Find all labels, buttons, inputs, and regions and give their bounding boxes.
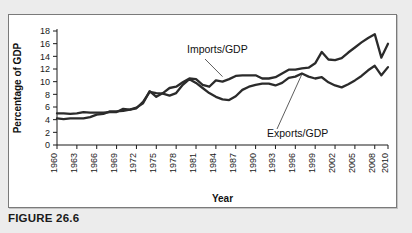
- x-tick-label: 1999: [307, 153, 317, 173]
- y-tick-label: 2: [45, 128, 50, 138]
- x-tick-label: 1996: [287, 153, 297, 173]
- x-tick-label: 2005: [347, 153, 357, 173]
- x-tick-label: 1990: [248, 153, 258, 173]
- y-tick-label: 10: [40, 77, 50, 87]
- y-tick-label: 4: [45, 115, 50, 125]
- y-tick-label: 6: [45, 102, 50, 112]
- y-tick-label: 8: [45, 90, 50, 100]
- x-tick-label: 1975: [148, 153, 158, 173]
- x-tick-label: 1963: [69, 153, 79, 173]
- y-tick-label: 14: [40, 52, 50, 62]
- x-tick-label: 1987: [228, 153, 238, 173]
- figure-container: 0246810121416181960196319661969197219751…: [0, 0, 412, 233]
- x-tick-label: 1972: [128, 153, 138, 173]
- annotation-label-1: Exports/GDP: [267, 127, 328, 139]
- figure-caption: FIGURE 26.6: [8, 212, 79, 224]
- y-axis-title: Percentage of GDP: [12, 42, 23, 133]
- annotation-label-0: Imports/GDP: [187, 43, 248, 55]
- x-axis-title: Year: [212, 193, 233, 204]
- x-tick-label: 1978: [168, 153, 178, 173]
- x-tick-label: 1984: [208, 153, 218, 173]
- x-tick-label: 1966: [89, 153, 99, 173]
- x-tick-label: 2010: [380, 153, 390, 173]
- y-tick-label: 16: [40, 39, 50, 49]
- y-tick-label: 18: [40, 26, 50, 36]
- chart-frame: 0246810121416181960196319661969197219751…: [8, 14, 397, 208]
- x-tick-label: 1981: [188, 153, 198, 173]
- y-tick-label: 0: [45, 140, 50, 150]
- x-tick-label: 2008: [367, 153, 377, 173]
- y-tick-label: 12: [40, 64, 50, 74]
- x-tick-label: 1993: [267, 153, 277, 173]
- series-line-1: [57, 66, 388, 114]
- x-tick-label: 2002: [327, 153, 337, 173]
- line-chart: 0246810121416181960196319661969197219751…: [9, 15, 396, 207]
- x-tick-label: 1969: [109, 153, 119, 173]
- annotation-leader-0: [205, 59, 223, 77]
- x-tick-label: 1960: [49, 153, 59, 173]
